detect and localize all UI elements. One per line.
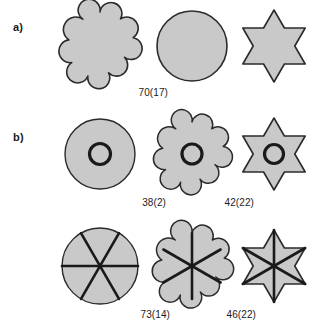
shape-cell-star-plain: 41(13)	[222, 4, 312, 112]
shape-cell-star-ring: 76(46)	[222, 114, 312, 222]
star-with-spokes-shape-icon	[222, 226, 312, 316]
shape-caption: 76(46)	[238, 198, 312, 208]
panel-letter-b: b)	[13, 132, 24, 143]
shape-caption: 41(13)	[242, 88, 312, 98]
panel-letter-a: a)	[13, 22, 23, 33]
shape-cell-flower-plain: 70(17)	[48, 4, 152, 112]
circle-with-ring-shape-icon	[48, 114, 152, 204]
shape-cell-circle-spokes: 73(14)	[48, 226, 152, 334]
flower-shape-icon	[48, 4, 152, 94]
shape-cell-circle-ring: 38(2)	[48, 114, 152, 222]
radial-spokes-icon	[243, 230, 305, 302]
shape-cell-star-spokes: 66(41)	[222, 226, 312, 334]
star-shape-icon	[222, 4, 312, 94]
circle-with-spokes-shape-icon	[48, 226, 152, 316]
shape-caption: 66(41)	[238, 310, 312, 320]
star-with-ring-shape-icon	[222, 114, 312, 204]
figure-panel: a) b) 70(17) 41(13) 38(2)	[0, 0, 312, 336]
